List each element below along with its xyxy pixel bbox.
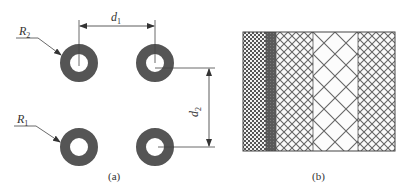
layer-medium-crosshatch-left	[276, 32, 313, 151]
label-r1-sub: 1	[24, 119, 28, 128]
ring-bottom-left	[65, 133, 93, 161]
label-d2-sub: 2	[194, 107, 203, 111]
layer-fine-checker	[243, 32, 266, 151]
label-d2: d2	[187, 107, 203, 117]
label-r1: R1	[17, 112, 28, 128]
leader-r2	[16, 38, 61, 55]
label-r2: R2	[19, 24, 30, 40]
label-d1-sub: 1	[117, 17, 121, 26]
caption-a: (a)	[108, 170, 120, 182]
caption-b: (b)	[312, 170, 325, 182]
panel-a	[14, 20, 215, 161]
layer-medium-crosshatch-right	[358, 32, 395, 151]
layer-dark-band	[266, 32, 276, 151]
layer-large-crosshatch	[313, 32, 358, 151]
label-r2-sub: 2	[26, 31, 30, 40]
panel-b	[243, 32, 395, 151]
figure-canvas	[0, 0, 406, 193]
leader-r1	[14, 126, 60, 142]
label-d1: d1	[111, 10, 121, 26]
label-d2-main: d	[187, 111, 201, 117]
